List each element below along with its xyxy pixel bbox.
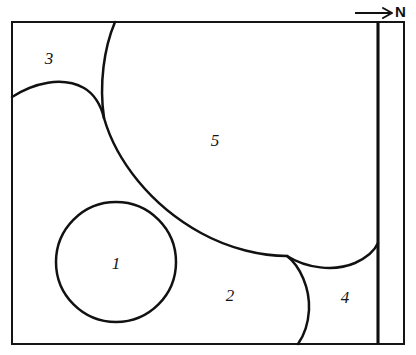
boundary-region3-arc <box>12 82 104 118</box>
boundary-top-steep <box>102 22 115 118</box>
region-label-5: 5 <box>211 131 220 150</box>
region-label-2: 2 <box>226 286 235 305</box>
region-label-1: 1 <box>112 254 121 273</box>
region-label-3: 3 <box>44 49 54 68</box>
boundary-main-sweep <box>104 118 287 256</box>
north-label: N <box>395 3 406 20</box>
boundary-region5-right <box>287 243 378 268</box>
north-arrow-icon <box>355 8 392 18</box>
region-label-4: 4 <box>341 288 350 307</box>
sketch-map-figure: N 3 5 1 2 4 <box>0 0 416 355</box>
map-canvas: N 3 5 1 2 4 <box>0 0 416 355</box>
boundary-region4-left <box>287 256 309 344</box>
